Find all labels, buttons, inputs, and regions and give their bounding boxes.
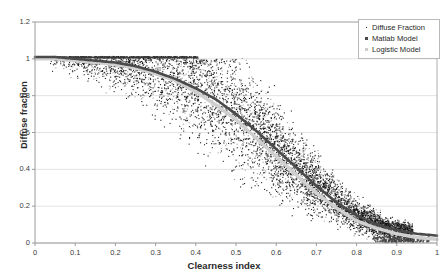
diffuse-fraction-scatter-chart: Diffuse fraction Clearness index 00.20.4…: [0, 0, 448, 280]
chart-legend: Diffuse Fraction Matlab Model Logistic M…: [358, 19, 440, 59]
y-tick-label: 1.2: [2, 17, 30, 26]
y-tick-label: 0.2: [2, 201, 30, 210]
x-tick-label: 0.5: [222, 248, 250, 257]
y-tick-label: 0.6: [2, 128, 30, 137]
y-tick-label: 1: [2, 54, 30, 63]
legend-label: Diffuse Fraction: [372, 23, 425, 32]
x-tick-label: 0: [21, 248, 49, 257]
square-marker-icon: [362, 37, 371, 40]
x-tick-label: 0.1: [61, 248, 89, 257]
legend-item-matlab-model: Matlab Model: [362, 33, 437, 44]
x-tick-label: 0.6: [262, 248, 290, 257]
x-tick-label: 0.8: [343, 248, 371, 257]
y-tick-label: 0: [2, 238, 30, 247]
x-tick-label: 0.4: [182, 248, 210, 257]
legend-label: Matlab Model: [372, 34, 418, 43]
y-tick-label: 0.8: [2, 91, 30, 100]
y-tick-label: 0.4: [2, 164, 30, 173]
legend-item-diffuse-fraction: Diffuse Fraction: [362, 22, 437, 33]
x-tick-label: 0.2: [101, 248, 129, 257]
legend-item-logistic-model: Logistic Model: [362, 44, 437, 55]
x-tick-label: 0.7: [302, 248, 330, 257]
x-tick-label: 0.9: [383, 248, 411, 257]
x-axis-label: Clearness index: [0, 260, 448, 271]
y-axis-label: Diffuse fraction: [19, 55, 29, 175]
x-tick-label: 0.3: [142, 248, 170, 257]
line-marker-icon: [362, 48, 371, 50]
x-tick-label: 1: [423, 248, 448, 257]
legend-label: Logistic Model: [372, 45, 421, 54]
dot-marker-icon: [362, 27, 371, 29]
